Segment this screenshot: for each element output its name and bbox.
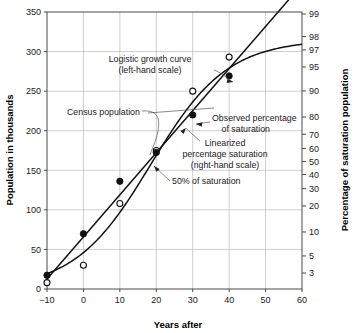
y-tick-label: 300 <box>26 47 41 57</box>
right-tick-label: 80 <box>309 112 319 122</box>
right-axis-title: Percentage of saturation population <box>339 69 350 232</box>
x-tick-label: 20 <box>151 295 161 305</box>
logistic-curve-annotation-line1: Logistic growth curve <box>109 54 192 64</box>
observed-saturation-point <box>80 231 86 237</box>
x-tick-label: 50 <box>261 295 271 305</box>
right-tick-label: 40 <box>309 170 319 180</box>
linearized-annotation-line3: (right-hand scale) <box>191 160 260 170</box>
census-population-point <box>117 201 123 207</box>
y-axis-title: Population in thousands <box>4 95 15 206</box>
y-tick-label: 0 <box>36 284 41 294</box>
observed-saturation-point <box>153 149 159 155</box>
right-tick-label: 70 <box>309 130 319 140</box>
right-tick-label: 97 <box>309 45 319 55</box>
x-tick-label: 30 <box>188 295 198 305</box>
chart-container: −100102030405060 050100150200250300350 3… <box>0 0 356 333</box>
right-tick-label: 90 <box>309 86 319 96</box>
y-tick-label: 50 <box>31 245 41 255</box>
x-tick-label: 60 <box>297 295 307 305</box>
x-tick-label: 0 <box>81 295 86 305</box>
y-tick-label: 200 <box>26 126 41 136</box>
observed-percentage-annotation-line2: of saturation <box>222 124 271 134</box>
census-population-point <box>226 54 232 60</box>
x-tick-label: 40 <box>224 295 234 305</box>
right-tick-label: 10 <box>309 227 319 237</box>
observed-percentage-annotation-line1: Observed percentage <box>212 113 297 123</box>
right-tick-label: 99 <box>309 9 319 19</box>
observed-saturation-point <box>190 112 196 118</box>
right-tick-label: 50 <box>309 157 319 167</box>
right-tick-label: 5 <box>309 251 314 261</box>
right-tick-label: 95 <box>309 62 319 72</box>
linearized-annotation-line2: percentage saturation <box>182 149 267 159</box>
census-population-annotation: Census population <box>67 107 140 117</box>
right-tick-label: 30 <box>309 184 319 194</box>
census-population-point <box>44 280 50 286</box>
x-tick-label: 10 <box>115 295 125 305</box>
y-tick-label: 150 <box>26 166 41 176</box>
right-tick-label: 60 <box>309 144 319 154</box>
census-population-point <box>190 88 196 94</box>
population-saturation-chart: −100102030405060 050100150200250300350 3… <box>0 0 356 333</box>
y-tick-label: 250 <box>26 86 41 96</box>
right-tick-label: 98 <box>309 32 319 42</box>
y-tick-label: 350 <box>26 7 41 17</box>
census-population-point <box>80 262 86 268</box>
y-tick-label: 100 <box>26 205 41 215</box>
observed-saturation-point <box>44 272 50 278</box>
linearized-annotation-line1: Linearized <box>205 138 246 148</box>
logistic-curve-annotation-line2: (left-hand scale) <box>118 65 181 75</box>
fifty-percent-annotation: 50% of saturation <box>172 176 241 186</box>
right-tick-label: 3 <box>309 268 314 278</box>
right-tick-label: 20 <box>309 201 319 211</box>
x-tick-label: −10 <box>39 295 54 305</box>
observed-saturation-point <box>117 178 123 184</box>
x-axis-title: Years after <box>154 319 203 330</box>
